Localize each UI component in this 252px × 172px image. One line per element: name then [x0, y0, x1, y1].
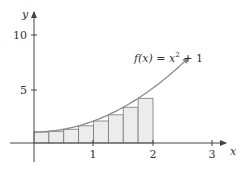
x-tick-label-3: 3: [209, 148, 216, 161]
y-axis-label: y: [21, 8, 29, 21]
riemann-rectangle: [49, 131, 64, 143]
x-axis-label: x: [230, 145, 237, 158]
riemann-rectangle: [108, 115, 123, 143]
riemann-rectangle: [94, 121, 109, 143]
y-tick-label-5: 5: [20, 84, 27, 97]
function-label-prefix: f(x) = x: [133, 52, 176, 65]
y-tick-label-10: 10: [13, 29, 27, 42]
riemann-rectangle: [79, 126, 94, 143]
function-label-suffix: + 1: [180, 52, 203, 65]
riemann-rectangle: [138, 98, 153, 143]
riemann-rectangle: [34, 132, 49, 143]
riemann-rectangle: [123, 107, 138, 143]
function-label: f(x) = x2 + 1: [133, 51, 203, 65]
x-tick-label-1: 1: [90, 148, 97, 161]
riemann-rectangle: [64, 129, 79, 143]
x-tick-label-2: 2: [150, 148, 157, 161]
riemann-sum-chart: 1 2 3 5 10 x y f(x) = x2 + 1: [0, 0, 252, 172]
